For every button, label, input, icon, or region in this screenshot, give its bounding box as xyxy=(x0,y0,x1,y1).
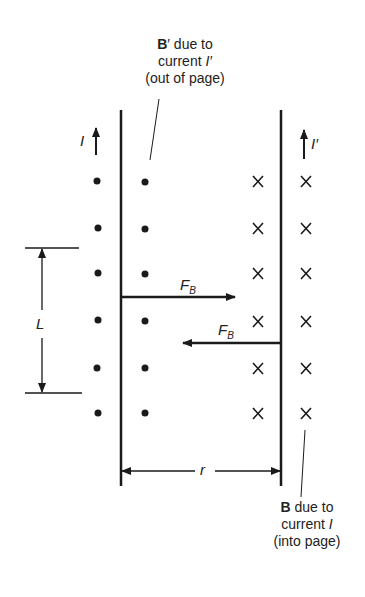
top-annotation-line1: ′ due to xyxy=(167,36,212,52)
bottom-annotation-leader xyxy=(301,430,305,497)
force-symbol: F xyxy=(218,321,227,338)
separation-label: r xyxy=(200,461,205,478)
current-label-left: I xyxy=(80,132,84,149)
field-symbol-b: B xyxy=(281,499,291,515)
current-symbol-i: I xyxy=(329,516,333,532)
force-label-upper: FB xyxy=(180,276,196,299)
bottom-annotation-line3: (into page) xyxy=(262,533,352,550)
current-label-right: I′ xyxy=(311,135,318,152)
force-subscript: B xyxy=(189,285,196,296)
top-annotation: B′ due to current I′ (out of page) xyxy=(130,36,240,87)
top-annotation-line2: current xyxy=(158,53,205,69)
top-annotation-leader xyxy=(150,99,159,160)
bottom-annotation-line1: due to xyxy=(291,499,334,515)
length-label: L xyxy=(36,315,44,332)
bottom-annotation-line2: current xyxy=(281,516,328,532)
force-symbol: F xyxy=(180,276,189,293)
current-symbol-i-prime: I′ xyxy=(205,53,212,69)
bottom-annotation: B due to current I (into page) xyxy=(262,499,352,550)
field-symbol-b-prime: B xyxy=(157,36,167,52)
force-subscript: B xyxy=(227,330,234,341)
force-label-lower: FB xyxy=(218,321,234,344)
top-annotation-line3: (out of page) xyxy=(130,70,240,87)
